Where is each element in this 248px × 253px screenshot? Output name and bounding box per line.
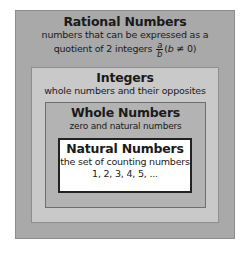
natural-numbers-set: Natural Numbers the set of counting numb… xyxy=(58,138,192,193)
rational-numbers-description-line2: quotient of 2 integers a b (b ≠ 0) xyxy=(16,41,234,58)
fraction-denominator: b xyxy=(156,50,163,58)
integers-description: whole numbers and their opposites xyxy=(32,85,218,97)
fraction-a-over-b: a b xyxy=(156,41,163,58)
rational-numbers-description-line1: numbers that can be expressed as a xyxy=(16,29,234,41)
integers-title: Integers xyxy=(32,71,218,85)
whole-numbers-description: zero and natural numbers xyxy=(46,120,205,132)
natural-numbers-title: Natural Numbers xyxy=(60,142,190,156)
rational-numbers-title: Rational Numbers xyxy=(16,15,234,29)
natural-numbers-examples: 1, 2, 3, 4, 5, ... xyxy=(60,168,190,180)
condition-rest: ≠ 0) xyxy=(174,43,197,54)
quotient-text: quotient of 2 integers xyxy=(54,43,153,54)
whole-numbers-title: Whole Numbers xyxy=(46,106,205,120)
natural-numbers-description: the set of counting numbers xyxy=(60,156,190,168)
